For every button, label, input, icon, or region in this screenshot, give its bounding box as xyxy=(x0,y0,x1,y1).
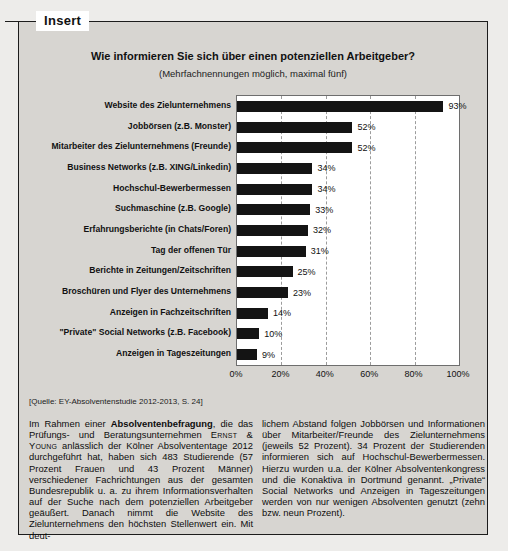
bar xyxy=(237,349,257,360)
bar-category-label: Suchmaschine (z.B. Google) xyxy=(23,198,231,219)
bar xyxy=(237,163,312,174)
bar xyxy=(237,328,259,339)
bar-category-label: Business Networks (z.B. XING/Linkedin) xyxy=(23,157,231,178)
chart-title: Wie informieren Sie sich über einen pote… xyxy=(19,50,487,62)
bar-category-label: Hochschul-Bewerbermessen xyxy=(23,178,231,199)
bar-value-label: 23% xyxy=(293,282,311,303)
bar-value-label: 31% xyxy=(311,241,329,262)
bar-value-label: 9% xyxy=(262,344,275,365)
gridline-80 xyxy=(415,96,416,365)
bar xyxy=(237,101,443,112)
category-labels-column: Website des ZielunternehmensJobbörsen (z… xyxy=(23,95,231,364)
x-axis-tick-labels: 0%20%40%60%80%100% xyxy=(236,369,458,383)
bar-value-label: 14% xyxy=(273,303,291,324)
bar-category-label: "Private" Social Networks (z.B. Facebook… xyxy=(23,323,231,344)
bar-category-label: Website des Zielunternehmens xyxy=(23,95,231,116)
article-text-segment: Absolventenbefragung xyxy=(111,418,213,429)
bar-category-label: Anzeigen in Tageszeitungen xyxy=(23,343,231,364)
insert-rule-left-segment xyxy=(5,21,19,22)
x-tick-label: 40% xyxy=(316,369,334,379)
bar xyxy=(237,246,306,257)
bar-category-label: Berichte in Zeitungen/Zeitschriften xyxy=(23,261,231,282)
bar-chart-plot-area: 93%52%52%34%34%33%32%31%25%23%14%10%9% xyxy=(236,95,460,366)
bar-value-label: 52% xyxy=(357,117,375,138)
bar-value-label: 32% xyxy=(313,220,331,241)
x-tick-label: 0% xyxy=(229,369,242,379)
insert-panel: Wie informieren Sie sich über einen pote… xyxy=(18,21,488,535)
article-text-segment: anlässlich der Kölner Absolvententage 20… xyxy=(29,440,253,540)
article-right-column: lichem Abstand folgen Jobbörsen und Info… xyxy=(262,418,485,518)
bar xyxy=(237,308,268,319)
bar-value-label: 93% xyxy=(448,96,466,117)
bar-category-label: Jobbörsen (z.B. Monster) xyxy=(23,116,231,137)
bar-category-label: Tag der offenen Tür xyxy=(23,240,231,261)
bar xyxy=(237,225,308,236)
article-text-segment: lichem Abstand folgen Jobbörsen und Info… xyxy=(262,418,485,518)
chart-subtitle: (Mehrfachnennungen möglich, maximal fünf… xyxy=(19,68,487,79)
article-text-segment: Im Rahmen einer xyxy=(29,418,111,429)
insert-heading: Insert xyxy=(36,11,89,31)
x-tick-label: 20% xyxy=(271,369,289,379)
x-tick-label: 100% xyxy=(446,369,469,379)
bar xyxy=(237,287,288,298)
bar-category-label: Anzeigen in Fachzeitschriften xyxy=(23,302,231,323)
bar-category-label: Broschüren und Flyer des Unternehmens xyxy=(23,281,231,302)
bar xyxy=(237,184,312,195)
bar-value-label: 52% xyxy=(357,137,375,158)
x-tick-label: 80% xyxy=(405,369,423,379)
bar-value-label: 33% xyxy=(315,199,333,220)
bar-category-label: Erfahrungsberichte (in Chats/Foren) xyxy=(23,219,231,240)
bar-value-label: 34% xyxy=(317,179,335,200)
bar-value-label: 10% xyxy=(264,324,282,345)
source-citation: [Quelle: EY-Absolventenstudie 2012-2013,… xyxy=(29,397,203,406)
article-left-column: Im Rahmen einer Absolventenbefragung, di… xyxy=(29,418,253,541)
bar xyxy=(237,266,293,277)
bar xyxy=(237,204,310,215)
bar-value-label: 25% xyxy=(298,262,316,283)
bar-category-label: Mitarbeiter des Zielunternehmens (Freund… xyxy=(23,136,231,157)
bar xyxy=(237,122,352,133)
bar-value-label: 34% xyxy=(317,158,335,179)
bar xyxy=(237,142,352,153)
x-tick-label: 60% xyxy=(360,369,378,379)
